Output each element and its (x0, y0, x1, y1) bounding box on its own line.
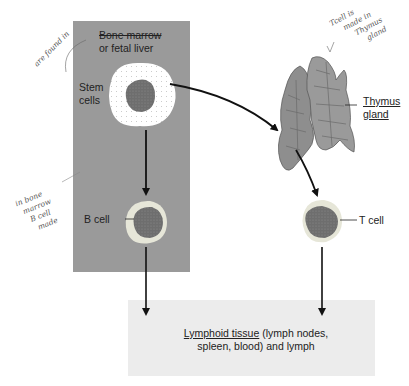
handwritten-arrow-found-in (65, 40, 86, 72)
handwritten-arrow-bcell-note (62, 172, 80, 182)
arrow-thymus-to-tcell (296, 150, 317, 195)
stem-cells-label: Stem cells (79, 81, 104, 107)
thymus-gland-label: Thymus gland (363, 95, 400, 121)
t-cell-icon (303, 200, 343, 242)
arrow-stem-to-thymus (170, 84, 277, 130)
marrow-label: Bone marrow or fetal liver (99, 29, 161, 55)
lymphoid-tissue-label: Lymphoid tissue (lymph nodes, spleen, bl… (161, 327, 351, 353)
b-cell-icon (126, 201, 167, 244)
thymus-gland-icon (278, 57, 354, 171)
t-cell-label: T cell (359, 214, 384, 227)
handwritten-check-icon (327, 42, 334, 52)
b-cell-label: B cell (84, 213, 110, 226)
stem-cell-icon (109, 63, 176, 126)
